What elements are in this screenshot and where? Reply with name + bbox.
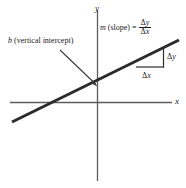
slope-numerator: Δy: [139, 19, 152, 27]
x-axis-label: x: [175, 97, 179, 106]
numerator-variable: y: [146, 18, 150, 27]
intercept-text: (vertical intercept): [12, 36, 73, 45]
function-line: [12, 40, 179, 122]
equals-sign: =: [132, 24, 137, 32]
slope-name: (slope): [108, 24, 130, 32]
denominator-variable: x: [146, 27, 150, 36]
vertical-intercept-label: b (vertical intercept): [8, 37, 73, 45]
rise-variable: y: [172, 52, 176, 61]
y-axis-label: y: [95, 4, 99, 13]
slope-equation: m (slope) = Δy Δx: [100, 19, 151, 37]
graph-canvas: [0, 0, 186, 188]
intercept-arrow: [60, 50, 98, 87]
rise-label: Δy: [167, 53, 176, 61]
slope-fraction: Δy Δx: [139, 19, 152, 37]
slope-symbol: m: [100, 24, 106, 32]
slope-intercept-figure: y x b (vertical intercept) m (slope) = Δ…: [0, 0, 186, 188]
run-variable: x: [147, 71, 151, 80]
run-label: Δx: [142, 72, 151, 80]
slope-denominator: Δx: [139, 27, 152, 36]
